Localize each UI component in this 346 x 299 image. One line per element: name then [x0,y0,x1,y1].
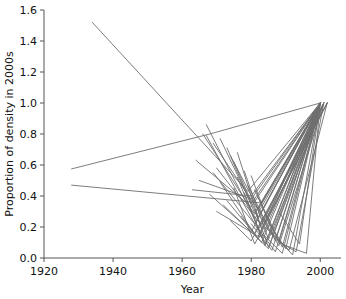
y-tick-label: 1.4 [20,35,38,48]
x-axis-label: Year [180,283,205,296]
y-tick-label: 0.2 [20,221,38,234]
x-tick-label: 2000 [306,265,334,278]
x-tick-label: 1960 [168,265,196,278]
y-tick-label: 1.2 [20,66,38,79]
y-tick-label: 1.0 [20,97,38,110]
y-tick-label: 1.6 [20,4,38,17]
chart-container: 0.00.20.40.60.81.01.21.41.61920194019601… [0,0,346,299]
y-tick-label: 0.6 [20,159,38,172]
y-axis-label: Proportion of density in 2000s [3,51,16,217]
data-lines-group [72,22,328,255]
y-tick-label: 0.4 [20,190,38,203]
y-tick-label: 0.0 [20,252,38,265]
axis-labels-group: 0.00.20.40.60.81.01.21.41.61920194019601… [3,4,334,296]
x-tick-label: 1920 [30,265,58,278]
y-tick-label: 0.8 [20,128,38,141]
spaghetti-line-chart: 0.00.20.40.60.81.01.21.41.61920194019601… [0,0,346,299]
x-tick-label: 1940 [99,265,127,278]
x-tick-label: 1980 [237,265,265,278]
